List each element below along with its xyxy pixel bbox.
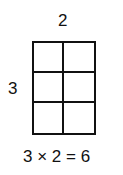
- multiplication-equation: 3 × 2 = 6: [23, 148, 90, 165]
- grid-cell: [64, 43, 94, 73]
- grid-cell: [64, 73, 94, 103]
- rectangle-array-grid: [32, 41, 96, 135]
- rows-label: 3: [8, 80, 17, 97]
- columns-label: 2: [58, 12, 67, 29]
- grid-cell: [34, 73, 64, 103]
- grid-cell: [34, 43, 64, 73]
- grid-cell: [34, 103, 64, 133]
- grid-cell: [64, 103, 94, 133]
